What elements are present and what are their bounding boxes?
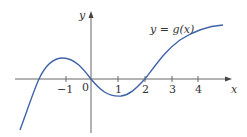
x-axis-label: x bbox=[231, 84, 237, 95]
y-axis-label: y bbox=[79, 10, 85, 21]
y-axis-arrow-icon bbox=[89, 11, 94, 18]
tick-label-4: 4 bbox=[195, 84, 202, 95]
x-axis-arrow-icon bbox=[225, 77, 232, 82]
graph-figure: y x −1 0 1 2 3 4 y = g(x) bbox=[0, 0, 247, 137]
plot-canvas bbox=[0, 0, 247, 137]
tick-label-neg1: −1 bbox=[57, 84, 73, 95]
curve-g bbox=[20, 25, 223, 130]
tick-label-0: 0 bbox=[82, 82, 89, 93]
tick-label-1: 1 bbox=[115, 84, 122, 95]
tick-label-3: 3 bbox=[169, 84, 176, 95]
curve-label: y = g(x) bbox=[150, 24, 194, 35]
tick-label-2: 2 bbox=[142, 84, 149, 95]
